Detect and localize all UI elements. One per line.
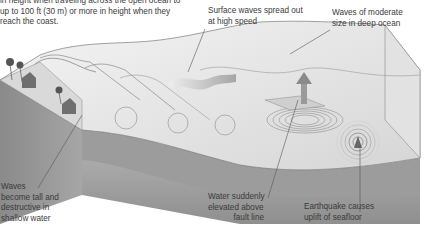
intro-line: reach the coast.	[0, 17, 180, 28]
label-line: Waves	[1, 182, 59, 193]
label-line: Surface waves spread out	[208, 6, 303, 17]
label-line: elevated above	[208, 203, 264, 214]
label-line: fault line	[208, 213, 264, 224]
label-line: size in deep ocean	[332, 19, 403, 30]
intro-line: up to 100 ft (30 m) or more in height wh…	[0, 7, 180, 18]
label-line: uplift of seafloor	[304, 213, 374, 224]
intro-line: in height when traveling across the open…	[0, 0, 180, 7]
label-water-elevated: Water suddenly elevated above fault line	[208, 192, 264, 224]
intro-text: in height when traveling across the open…	[0, 0, 180, 28]
label-line: at high speed	[208, 17, 303, 28]
label-line: Waves of moderate	[332, 8, 403, 19]
label-line: Water suddenly	[208, 192, 264, 203]
label-moderate-waves: Waves of moderate size in deep ocean	[332, 8, 403, 29]
label-earthquake: Earthquake causes uplift of seafloor	[304, 202, 374, 223]
label-surface-waves: Surface waves spread out at high speed	[208, 6, 303, 27]
label-line: Earthquake causes	[304, 202, 374, 213]
tsunami-illustration	[0, 0, 428, 224]
label-line: become tall and	[1, 193, 59, 204]
label-line: destructive in	[1, 203, 59, 214]
label-tall-waves: Waves become tall and destructive in sha…	[1, 182, 59, 224]
label-line: shallow water	[1, 214, 59, 225]
